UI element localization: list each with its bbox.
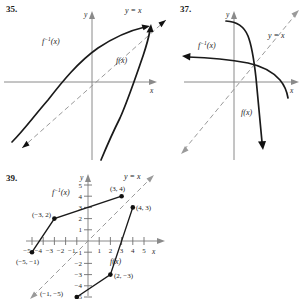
point-marker — [108, 272, 113, 277]
function-curve-37 — [226, 21, 266, 150]
y-axis-label-37: y — [225, 10, 230, 19]
y-axis-39 — [85, 174, 91, 296]
point-label-neg5-neg1: (−5, −1) — [16, 258, 40, 266]
y-tick-label: 2 — [79, 215, 83, 223]
x-tick-label: 5 — [142, 247, 146, 255]
point-marker — [119, 194, 124, 199]
x-tick-label: 4 — [131, 247, 135, 255]
x-axis-label-39: x — [151, 247, 156, 256]
y-tick-label: 4 — [79, 193, 83, 201]
y-tick-labels-39: 5 4 3 2 1 −1 −2 −3 −4 −5 — [75, 182, 83, 299]
function-label-35: f(x) — [116, 56, 127, 65]
point-marker — [131, 205, 136, 210]
point-marker — [30, 250, 35, 255]
point-label-2-neg3: (2, −3) — [114, 272, 134, 280]
figure-37-plot: y = x f−1(x) f(x) x y — [178, 0, 305, 165]
inverse-label-35: f−1(x) — [42, 36, 60, 46]
y-axis-label-39: y — [79, 173, 84, 182]
figure-35: 35. — [0, 0, 178, 165]
point-label-4-3: (4, 3) — [136, 204, 152, 212]
y-axis-35 — [89, 11, 95, 160]
inverse-curve-37 — [182, 53, 288, 98]
identity-label-35: y = x — [124, 6, 142, 15]
x-tick-label: −5 — [23, 247, 31, 255]
y-tick-label: −2 — [75, 260, 83, 268]
y-tick-label: −3 — [75, 271, 83, 279]
x-tick-label: 3 — [120, 247, 124, 255]
function-label-39: f(x) — [110, 257, 121, 266]
function-curve-35 — [101, 24, 154, 160]
inverse-label-37: f−1(x) — [198, 40, 216, 50]
figure-37: 37. — [178, 0, 305, 165]
inverse-label-39: f−1(x) — [52, 187, 70, 197]
y-tick-label: −4 — [75, 282, 83, 290]
x-tick-label: 1 — [97, 247, 101, 255]
x-axis-label-37: x — [289, 86, 294, 95]
y-tick-label: 5 — [79, 182, 83, 190]
y-axis-37 — [231, 11, 237, 160]
x-tick-label: 2 — [109, 247, 113, 255]
x-tick-label: −2 — [57, 247, 65, 255]
function-polyline-39 — [75, 205, 136, 299]
identity-label-39: y = x — [123, 172, 141, 181]
point-label-3-4: (3, 4) — [110, 185, 126, 193]
textbook-exercise-page: 35. — [0, 0, 305, 299]
identity-label-37: y = x — [267, 31, 285, 40]
point-marker — [52, 216, 57, 221]
y-tick-label: 1 — [79, 226, 83, 234]
point-label-neg3-2: (−3, 2) — [32, 211, 52, 219]
x-tick-label: −3 — [46, 247, 54, 255]
y-tick-label: −1 — [75, 249, 83, 257]
function-label-37: f(x) — [241, 108, 252, 117]
figure-39: 39. — [0, 165, 185, 299]
x-axis-label-35: x — [149, 86, 154, 95]
identity-line-39 — [30, 175, 154, 299]
y-axis-label-35: y — [83, 10, 88, 19]
x-tick-labels-39: −5 −4 −3 −2 −1 1 2 3 4 5 — [23, 247, 146, 255]
figure-35-plot: y = x f−1(x) f(x) x y — [0, 0, 178, 165]
inverse-polyline-39 — [30, 194, 124, 255]
figure-39-plot: −5 −4 −3 −2 −1 1 2 3 4 5 5 4 3 2 1 −1 −2… — [0, 165, 185, 299]
inverse-curve-35 — [12, 25, 150, 143]
x-tick-label: −4 — [34, 247, 42, 255]
point-label-neg1-neg5: (−1, −5) — [40, 290, 64, 298]
